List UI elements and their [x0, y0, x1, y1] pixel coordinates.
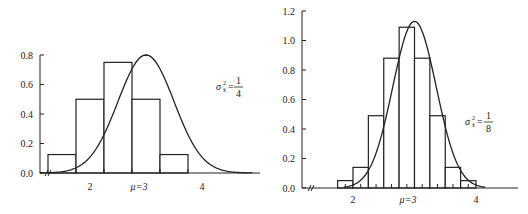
svg-text:2: 2 [223, 80, 226, 86]
svg-text:4: 4 [236, 88, 241, 99]
y-tick-label: 0.6 [283, 94, 296, 105]
left-xlabel-4: 4 [200, 181, 205, 192]
y-tick-label: 1.0 [283, 35, 296, 46]
histograms-figure: 0.00.20.40.60.8 2 μ=3 4 σ 2 x̄ = 1 4 0.0… [0, 0, 528, 214]
y-tick-label: 0.8 [21, 50, 34, 61]
y-tick-label: 0.6 [21, 79, 34, 90]
histogram-bar [76, 99, 104, 173]
svg-text:2: 2 [472, 115, 475, 121]
left-variance-annotation: σ 2 x̄ = 1 4 [216, 75, 243, 99]
right-histogram: 0.00.20.40.60.81.01.2 2 μ=3 4 σ 2 x̄ = 1… [283, 6, 519, 206]
histogram-bar [132, 99, 160, 173]
svg-text:8: 8 [486, 123, 491, 134]
histogram-bar [48, 155, 76, 173]
histogram-bar [384, 58, 399, 188]
svg-text:σ: σ [465, 116, 471, 127]
y-tick-label: 0.0 [21, 168, 34, 179]
y-tick-label: 0.0 [283, 183, 296, 194]
svg-text:x̄: x̄ [472, 122, 475, 128]
left-xlabel-mu: μ=3 [130, 181, 148, 192]
y-tick-label: 1.2 [283, 6, 296, 17]
right-xlabel-2: 2 [351, 194, 356, 205]
y-tick-label: 0.2 [21, 138, 34, 149]
right-bars [338, 27, 476, 188]
histogram-bar [415, 58, 430, 188]
svg-text:=: = [228, 81, 234, 92]
left-xlabel-2: 2 [88, 181, 93, 192]
y-tick-label: 0.8 [283, 65, 296, 76]
histogram-bar [430, 116, 445, 188]
y-tick-label: 0.4 [283, 124, 296, 135]
right-xlabel-4: 4 [474, 194, 479, 205]
right-variance-annotation: σ 2 x̄ = 1 8 [465, 110, 493, 134]
y-tick-label: 0.2 [283, 153, 296, 164]
left-bars [48, 62, 188, 173]
svg-text:x̄: x̄ [223, 87, 226, 93]
svg-text:σ: σ [216, 81, 222, 92]
y-tick-label: 0.4 [21, 109, 34, 120]
svg-text:=: = [477, 116, 483, 127]
svg-text:1: 1 [486, 110, 491, 121]
histogram-bar [160, 155, 188, 173]
left-histogram: 0.00.20.40.60.8 2 μ=3 4 σ 2 x̄ = 1 4 [21, 50, 261, 193]
svg-text:1: 1 [236, 75, 241, 86]
right-xlabel-mu: μ=3 [399, 194, 417, 205]
